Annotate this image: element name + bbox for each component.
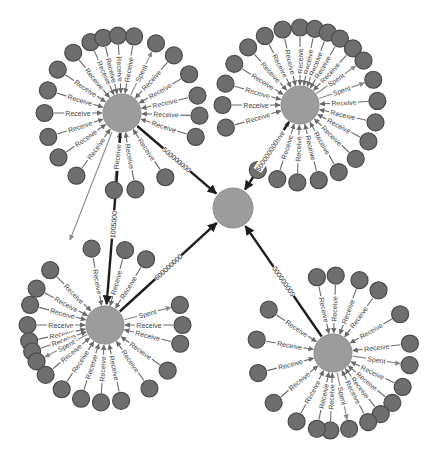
address-node[interactable]: [42, 262, 59, 279]
address-node[interactable]: [73, 390, 90, 407]
svg-text:Receive: Receive: [243, 102, 268, 109]
receive-edge-label: Receive: [243, 109, 273, 126]
receive-edge-label: Receive: [330, 97, 359, 107]
address-node[interactable]: [36, 105, 53, 122]
svg-text:500000000: 500000000: [255, 139, 280, 172]
address-node[interactable]: [157, 169, 174, 186]
address-node[interactable]: [19, 317, 36, 334]
receive-edge-label: Receive: [330, 295, 340, 323]
address-node[interactable]: [370, 282, 387, 299]
address-node[interactable]: [189, 87, 206, 104]
address-node[interactable]: [265, 394, 282, 411]
address-node[interactable]: [289, 174, 306, 191]
address-node[interactable]: [50, 149, 67, 166]
address-node[interactable]: [392, 306, 409, 323]
address-node[interactable]: [127, 181, 144, 198]
address-node[interactable]: [250, 365, 267, 382]
address-node[interactable]: [248, 331, 265, 348]
address-node[interactable]: [401, 335, 418, 352]
svg-text:Receive: Receive: [287, 370, 311, 392]
address-node[interactable]: [217, 119, 234, 136]
transaction-hub-node[interactable]: [281, 86, 319, 124]
address-node[interactable]: [159, 362, 176, 379]
address-node[interactable]: [360, 414, 377, 431]
center-transaction-node[interactable]: [213, 188, 253, 228]
address-node[interactable]: [126, 28, 143, 45]
address-node[interactable]: [117, 242, 134, 259]
address-node[interactable]: [171, 296, 188, 313]
address-node[interactable]: [308, 269, 325, 286]
address-node[interactable]: [351, 272, 368, 289]
svg-text:Receive: Receive: [99, 356, 107, 382]
address-node[interactable]: [256, 27, 273, 44]
address-node[interactable]: [147, 35, 164, 52]
address-node[interactable]: [226, 55, 243, 72]
receive-edge-label: Receive: [152, 110, 180, 120]
address-node[interactable]: [214, 97, 231, 114]
address-node[interactable]: [165, 47, 182, 64]
address-node[interactable]: [181, 66, 198, 83]
address-node[interactable]: [394, 378, 411, 395]
address-node[interactable]: [355, 52, 372, 69]
receive-edge-label: Receive: [97, 355, 107, 384]
transaction-graph: ReceiveReceiveReceiveReceiveReceiveRecei…: [0, 0, 428, 463]
address-node[interactable]: [260, 301, 277, 318]
address-node[interactable]: [172, 335, 189, 352]
spent-edge-label: Spent: [136, 307, 159, 321]
address-node[interactable]: [138, 251, 155, 268]
svg-text:Receive: Receive: [331, 99, 357, 107]
address-node[interactable]: [83, 240, 100, 257]
address-node[interactable]: [174, 317, 191, 334]
transaction-hub-node[interactable]: [86, 306, 124, 344]
receive-edge-label: Receive: [362, 341, 391, 353]
address-node[interactable]: [109, 27, 126, 44]
address-node[interactable]: [39, 82, 56, 99]
address-node[interactable]: [37, 366, 54, 383]
address-node[interactable]: [113, 392, 130, 409]
address-node[interactable]: [367, 114, 384, 131]
address-node[interactable]: [191, 107, 208, 124]
receive-edge-label: Receive: [64, 109, 92, 118]
address-node[interactable]: [28, 280, 45, 297]
address-node[interactable]: [341, 420, 358, 437]
address-node[interactable]: [308, 420, 325, 437]
svg-text:500000000: 500000000: [271, 265, 297, 298]
address-node[interactable]: [141, 380, 158, 397]
receive-edge-label: Receive: [135, 321, 163, 330]
address-node[interactable]: [40, 128, 57, 145]
address-node[interactable]: [92, 394, 109, 411]
address-node[interactable]: [288, 413, 305, 430]
address-node[interactable]: [53, 381, 70, 398]
address-node[interactable]: [369, 92, 386, 109]
address-node[interactable]: [217, 75, 234, 92]
transfer-amount-label: 600000000: [152, 252, 184, 283]
address-node[interactable]: [310, 172, 327, 189]
receive-edge-label: Receive: [107, 353, 122, 382]
transaction-hub-node[interactable]: [314, 334, 352, 372]
transaction-hub-node[interactable]: [103, 94, 141, 132]
address-node[interactable]: [330, 164, 347, 181]
receive-edge-label: Receive: [123, 142, 137, 171]
spent-edge-label: Spent: [365, 354, 387, 366]
address-node[interactable]: [401, 357, 418, 374]
svg-text:Receive: Receive: [284, 318, 309, 338]
address-node[interactable]: [49, 61, 66, 78]
address-node[interactable]: [274, 21, 291, 38]
receive-edge-label: Receive: [111, 142, 123, 171]
address-node[interactable]: [327, 267, 344, 284]
address-node[interactable]: [22, 296, 39, 313]
address-node[interactable]: [68, 167, 85, 184]
transfer-amount-label: 500000000: [270, 264, 298, 298]
svg-text:Spent: Spent: [332, 84, 352, 98]
address-node[interactable]: [365, 71, 382, 88]
receive-edge-label: Receive: [357, 320, 386, 342]
address-node[interactable]: [105, 182, 122, 199]
address-node[interactable]: [269, 171, 286, 188]
address-node[interactable]: [347, 150, 364, 167]
address-node[interactable]: [240, 39, 257, 56]
address-node[interactable]: [65, 44, 82, 61]
receive-edge-label: Receive: [149, 118, 179, 135]
address-node[interactable]: [360, 133, 377, 150]
receive-edge-label: Receive: [276, 356, 306, 372]
address-node[interactable]: [187, 128, 204, 145]
